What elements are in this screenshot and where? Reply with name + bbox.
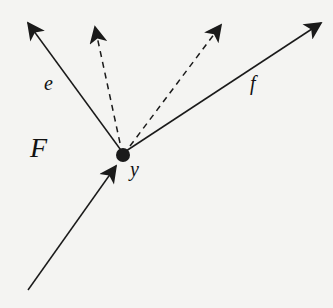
dashed-arrow-left bbox=[95, 27, 120, 143]
incoming-edge bbox=[28, 166, 116, 290]
label-F: F bbox=[30, 132, 47, 164]
label-y: y bbox=[130, 158, 139, 181]
dashed-arrow-right bbox=[130, 25, 221, 146]
edge-f-arrow bbox=[123, 23, 321, 153]
diagram: e f F y bbox=[0, 0, 333, 308]
diagram-graphics bbox=[0, 0, 333, 308]
label-e: e bbox=[44, 72, 53, 95]
label-f: f bbox=[250, 72, 256, 95]
node-y bbox=[116, 148, 130, 162]
